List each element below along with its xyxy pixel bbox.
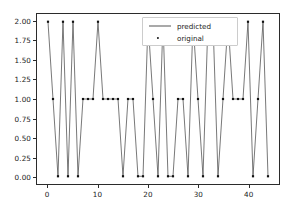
original-data-point	[117, 98, 119, 100]
legend-entry-predicted: predicted	[147, 20, 233, 32]
original-data-point	[252, 175, 254, 177]
original-data-point	[222, 98, 224, 100]
y-axis-tick-mark	[33, 119, 36, 120]
original-data-point	[82, 98, 84, 100]
legend-entry-original: original	[147, 32, 233, 44]
original-data-point	[152, 98, 154, 100]
original-data-point	[87, 98, 89, 100]
original-data-point	[57, 175, 59, 177]
original-data-point	[112, 98, 114, 100]
original-data-point	[52, 98, 54, 100]
original-data-point	[47, 21, 49, 23]
original-data-point	[157, 175, 159, 177]
x-axis-tick-label: 0	[45, 190, 50, 199]
original-data-point	[177, 98, 179, 100]
x-axis-tick-label: 10	[93, 190, 102, 199]
y-axis-tick-mark	[33, 79, 36, 80]
y-axis-tick-label: 2.00	[0, 16, 31, 25]
original-data-point	[167, 175, 169, 177]
original-data-point	[62, 21, 64, 23]
original-data-point	[107, 98, 109, 100]
y-axis-tick-mark	[33, 21, 36, 22]
y-axis-tick-mark	[33, 99, 36, 100]
original-data-point	[247, 21, 249, 23]
y-axis-tick-mark	[33, 60, 36, 61]
original-data-point	[237, 98, 239, 100]
original-data-point	[102, 98, 104, 100]
y-axis-tick-mark	[33, 158, 36, 159]
y-axis-tick-label: 0.75	[0, 114, 31, 123]
original-data-point	[122, 175, 124, 177]
matplotlib-figure: 0.000.250.500.751.001.251.501.752.00 010…	[0, 0, 287, 219]
y-axis-tick-mark	[33, 138, 36, 139]
original-data-point	[232, 98, 234, 100]
original-data-point	[67, 175, 69, 177]
original-data-point	[77, 175, 79, 177]
original-data-point	[132, 98, 134, 100]
legend-dot-icon	[147, 32, 173, 44]
y-axis-tick-mark	[33, 177, 36, 178]
original-data-point	[187, 175, 189, 177]
legend-label-predicted: predicted	[173, 22, 211, 31]
original-data-point	[202, 175, 204, 177]
original-data-point	[137, 175, 139, 177]
x-axis-tick-label: 40	[244, 190, 253, 199]
x-axis-tick-mark	[98, 185, 99, 188]
original-data-point	[257, 98, 259, 100]
original-data-point	[127, 98, 129, 100]
x-axis-tick-mark	[249, 185, 250, 188]
original-data-point	[142, 175, 144, 177]
legend-line-icon	[147, 20, 173, 32]
y-axis-tick-label: 1.25	[0, 75, 31, 84]
y-axis-tick-mark	[33, 40, 36, 41]
x-axis-tick-mark	[198, 185, 199, 188]
x-axis-tick-mark	[47, 185, 48, 188]
original-data-point	[182, 98, 184, 100]
original-data-point	[172, 175, 174, 177]
y-axis-tick-label: 0.00	[0, 173, 31, 182]
original-data-point	[267, 175, 269, 177]
x-axis-tick-mark	[148, 185, 149, 188]
original-data-point	[72, 21, 74, 23]
y-axis-tick-label: 0.25	[0, 153, 31, 162]
original-data-point	[217, 175, 219, 177]
y-axis-tick-label: 1.75	[0, 36, 31, 45]
x-axis-tick-label: 30	[194, 190, 203, 199]
x-axis-tick-label: 20	[143, 190, 152, 199]
original-data-point	[242, 98, 244, 100]
y-axis-tick-label: 1.00	[0, 95, 31, 104]
chart-legend: predicted original	[142, 17, 238, 46]
y-axis-tick-label: 1.50	[0, 55, 31, 64]
original-data-point	[92, 98, 94, 100]
original-data-point	[197, 98, 199, 100]
y-axis-tick-label: 0.50	[0, 134, 31, 143]
original-data-point	[97, 21, 99, 23]
original-data-point	[262, 21, 264, 23]
legend-label-original: original	[173, 34, 204, 43]
